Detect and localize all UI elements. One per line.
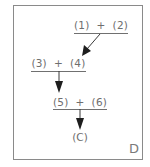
fraction-bar-step-3: [53, 109, 107, 110]
fraction-bar-step-2: [31, 71, 86, 72]
panel-label: D: [129, 142, 139, 155]
expression-step-1: (1) + (2): [74, 20, 128, 31]
expression-step-3: (5) + (6): [53, 97, 107, 108]
fraction-bar-step-1: [74, 33, 128, 34]
expression-step-2: (3) + (4): [31, 58, 86, 69]
result-label: (C): [71, 132, 89, 143]
